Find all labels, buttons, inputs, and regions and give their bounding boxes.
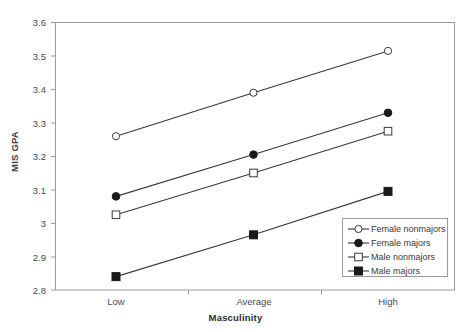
x-tick-label-high: High (348, 296, 428, 307)
legend-marker-open-square (355, 253, 363, 261)
legend-item-female-nonmajors[interactable]: Female nonmajors (371, 222, 446, 236)
legend-item-female-majors[interactable]: Female majors (371, 236, 446, 250)
data-point-open-square (112, 211, 120, 219)
series-female-nonmajors (112, 47, 391, 139)
legend-marker-open-circle (355, 225, 362, 232)
data-point-filled-circle (384, 109, 392, 117)
data-point-filled-circle (250, 151, 258, 159)
data-point-open-circle (384, 47, 391, 54)
data-point-open-square (384, 127, 392, 135)
data-point-open-circle (112, 133, 119, 140)
data-point-open-circle (250, 89, 257, 96)
y-tick-marks (51, 23, 56, 291)
series-female-majors (112, 109, 392, 200)
data-point-open-square (250, 169, 258, 177)
legend-item-male-nonmajors[interactable]: Male nonmajors (371, 250, 446, 264)
data-point-filled-square (112, 273, 120, 281)
data-point-filled-square (250, 231, 258, 239)
x-tick-label-low: Low (76, 296, 156, 307)
legend-item-male-majors[interactable]: Male majors (371, 264, 446, 278)
legend-marker-filled-circle (355, 239, 363, 247)
data-point-filled-square (384, 187, 392, 195)
x-tick-marks (189, 290, 322, 295)
chart-container: 3.6 3.5 3.4 3.3 3.2 3.1 3 2.9 2.8 MIS GP… (0, 0, 471, 332)
x-tick-label-average: Average (214, 296, 294, 307)
data-point-filled-circle (112, 193, 120, 201)
legend-marker-filled-square (355, 267, 363, 275)
series-male-nonmajors (112, 127, 392, 218)
x-axis-title: Masculinity (0, 312, 471, 323)
legend: Female nonmajors Female majors Male nonm… (371, 222, 446, 278)
chart-svg (0, 0, 471, 332)
